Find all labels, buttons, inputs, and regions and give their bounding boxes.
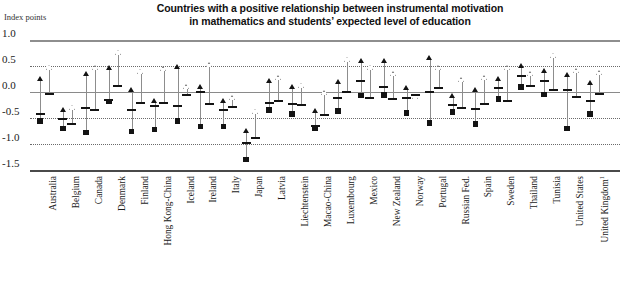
range-line [599,75,600,94]
point-estimate-dash-marker [342,91,351,93]
range-line [200,89,201,126]
point-estimate-dash-marker [205,103,214,105]
point-estimate-dash-marker [150,105,159,107]
lower-bound-square-marker [381,92,387,98]
point-estimate-dash-marker [228,106,237,108]
point-estimate-dash-marker [90,109,99,111]
point-estimate-dash-marker [425,91,434,93]
upper-bound-triangle-marker [298,83,304,88]
point-estimate-dash-marker [549,89,558,91]
point-estimate-dash-marker [36,113,45,115]
category-label-finland: Finland [140,176,150,205]
range-line [40,81,41,122]
category-label-hong-kong-china: Hong Kong-China [163,176,173,246]
upper-bound-triangle-marker [390,71,396,76]
point-estimate-dash-marker [67,123,76,125]
upper-bound-triangle-marker [527,71,533,76]
point-estimate-dash-marker [517,75,526,77]
category-label-latvia: Latvia [277,176,287,200]
point-estimate-dash-marker [274,100,283,102]
upper-bound-triangle-marker [344,57,350,62]
lower-bound-square-marker [335,108,341,114]
point-estimate-dash-marker [471,108,480,110]
category-label-belgium: Belgium [71,176,81,208]
range-line [576,73,577,97]
upper-bound-triangle-marker [151,98,157,103]
lower-bound-square-marker [404,110,410,116]
upper-bound-triangle-marker [83,71,89,76]
point-estimate-dash-marker [540,80,549,82]
lower-bound-square-marker [175,118,181,124]
category-label-denmark: Denmark [117,176,127,211]
category-label-mexico: Mexico [369,176,379,205]
point-estimate-dash-marker [182,94,191,96]
range-line [118,55,119,86]
lower-bound-square-marker [60,126,66,132]
gridline [30,118,620,119]
category-label-united-kingdom: United Kingdom1 [598,176,610,242]
upper-bound-triangle-marker [541,68,547,73]
point-estimate-dash-marker [58,118,67,120]
lower-bound-square-marker [243,157,249,163]
point-estimate-dash-marker [196,91,205,93]
point-estimate-dash-marker [297,104,306,106]
range-line [246,133,247,160]
category-label-australia: Australia [48,176,58,210]
y-axis-tick-label: 1.0 [2,27,16,39]
point-estimate-dash-marker [595,93,604,95]
footnote-marker: 1 [598,176,605,179]
gridline [30,170,620,172]
point-estimate-dash-marker [388,98,397,100]
upper-bound-triangle-marker [426,55,432,60]
upper-bound-triangle-marker [321,90,327,95]
lower-bound-square-marker [518,84,524,90]
upper-bound-triangle-marker [481,75,487,80]
lower-bound-square-marker [83,130,89,136]
lower-bound-square-marker [198,124,204,130]
point-estimate-dash-marker [402,97,411,99]
point-estimate-dash-marker [265,102,274,104]
upper-bound-triangle-marker [518,63,524,68]
point-estimate-dash-marker [159,102,168,104]
range-line [324,95,325,115]
category-label-spain: Spain [483,176,493,197]
lower-bound-square-marker [427,120,433,126]
point-estimate-dash-marker [434,87,443,89]
range-line [178,69,179,122]
category-label-luxembourg: Luxembourg [346,176,356,224]
point-estimate-dash-marker [356,80,365,82]
lower-bound-square-marker [37,118,43,124]
point-estimate-dash-marker [113,85,122,87]
range-line [462,82,463,107]
upper-bound-triangle-marker [550,53,556,58]
upper-bound-triangle-marker [335,79,341,84]
range-line [484,80,485,104]
lower-bound-square-marker [266,107,272,113]
range-line [384,63,385,95]
y-axis-unit-label: Index points [4,12,46,22]
upper-bound-triangle-marker [60,107,66,112]
range-line [553,58,554,90]
upper-bound-triangle-marker [197,84,203,89]
category-label-russian-fed: Russian Fed. [461,176,471,224]
lower-bound-square-marker [473,121,479,127]
category-label-japan: Japan [254,176,264,197]
range-line [507,70,508,101]
range-line [393,76,394,98]
point-estimate-dash-marker [526,85,535,87]
range-line [49,70,50,94]
point-estimate-dash-marker [448,104,457,106]
category-label-norway: Norway [415,176,425,206]
point-estimate-dash-marker [127,109,136,111]
category-label-macao-china: Macao-China [323,176,333,227]
y-axis-tick-label: 0.0 [2,79,16,91]
y-axis-tick-label: -1.5 [2,157,19,169]
lower-bound-square-marker [564,126,570,132]
upper-bound-triangle-marker [46,65,52,70]
range-line [278,80,279,101]
point-estimate-dash-marker [333,97,342,99]
range-line [347,62,348,92]
upper-bound-triangle-marker [183,84,189,89]
upper-bound-triangle-marker [495,76,501,81]
upper-bound-triangle-marker [596,70,602,75]
